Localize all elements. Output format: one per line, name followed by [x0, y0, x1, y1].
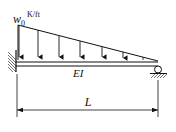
roller-support-icon [150, 66, 167, 78]
fixed-support-icon [8, 50, 16, 72]
distributed-load [18, 25, 158, 61]
beam-diagram: w0K/ft EI L [0, 0, 176, 132]
load-label: w0K/ft [13, 10, 41, 28]
beam-label: EI [72, 67, 85, 79]
span-label: L [84, 95, 92, 109]
beam [16, 62, 158, 66]
